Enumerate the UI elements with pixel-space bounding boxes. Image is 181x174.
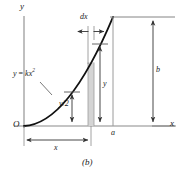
equation-exponent: 2 <box>32 67 35 73</box>
elemental-strip-group <box>88 63 94 127</box>
origin-label: O <box>13 120 20 129</box>
y-half-denominator: 2 <box>65 99 69 108</box>
y-half-dimension-label: y/2 <box>59 100 69 108</box>
y-axis-label: y <box>20 2 24 11</box>
elemental-strip <box>88 63 94 127</box>
b-dimension-label: b <box>156 66 160 74</box>
x-axis-label: x <box>170 119 174 128</box>
dx-dimension-label: dx <box>80 13 88 21</box>
axes-group <box>14 16 176 128</box>
y-dimension-label: y <box>103 80 107 88</box>
equation-leader-line <box>40 82 52 95</box>
parabola-area-diagram <box>0 0 181 174</box>
x-dimension-label: x <box>54 144 58 152</box>
a-dimension-label: a <box>111 129 115 137</box>
figure-caption: (b) <box>82 158 93 167</box>
curve-equation-label: y = kx2 <box>13 68 35 78</box>
figure-container: y x O y = kx2 dx y y/2 x a b (b) <box>0 0 181 174</box>
